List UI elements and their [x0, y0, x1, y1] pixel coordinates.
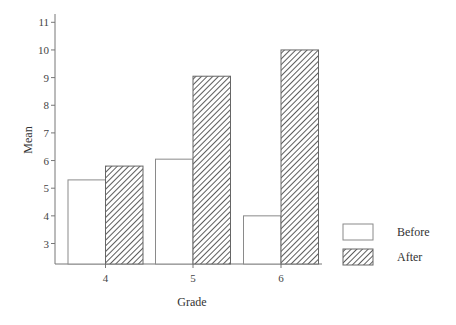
y-axis: 34567891011 — [38, 14, 55, 264]
x-tick-label: 5 — [190, 272, 196, 284]
y-tick-label: 6 — [44, 155, 50, 167]
y-tick-label: 7 — [44, 127, 50, 139]
y-tick-label: 11 — [38, 16, 49, 28]
y-tick-label: 4 — [44, 210, 50, 222]
bar-after-grade-5 — [193, 76, 231, 264]
y-tick-label: 5 — [44, 182, 50, 194]
bars — [68, 50, 319, 264]
legend: BeforeAfter — [343, 224, 430, 265]
bar-before-grade-5 — [156, 159, 194, 264]
bar-before-grade-4 — [68, 180, 106, 264]
y-tick-label: 10 — [38, 44, 50, 56]
legend-label-before: Before — [397, 225, 430, 239]
bar-after-grade-6 — [281, 50, 319, 264]
x-tick-label: 4 — [103, 272, 109, 284]
y-tick-label: 9 — [44, 72, 50, 84]
x-tick-label: 6 — [278, 272, 284, 284]
x-axis: 456 — [55, 264, 322, 284]
legend-label-after: After — [397, 250, 422, 264]
y-tick-label: 3 — [44, 238, 50, 250]
y-tick-label: 8 — [44, 99, 50, 111]
x-axis-title: Grade — [177, 295, 206, 309]
legend-swatch-before — [343, 224, 373, 240]
bar-chart: 34567891011 456 Mean Grade BeforeAfter — [0, 0, 456, 325]
y-axis-title: Mean — [21, 126, 35, 153]
bar-before-grade-6 — [244, 216, 282, 264]
legend-swatch-after — [343, 249, 373, 265]
bar-after-grade-4 — [106, 166, 144, 264]
